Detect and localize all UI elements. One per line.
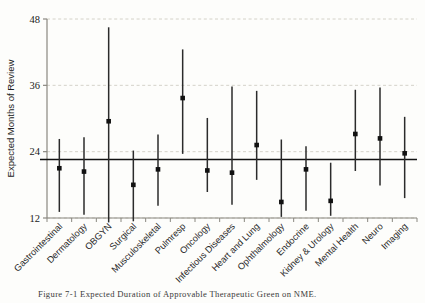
datapoint-group [106, 27, 111, 222]
y-tick-label-36: 36 [30, 80, 41, 91]
datapoint-group [304, 146, 309, 211]
y-tick-label-24: 24 [30, 146, 41, 157]
data-marker [131, 183, 136, 188]
y-tick-label-12: 12 [30, 213, 41, 224]
y-axis-title: Expected Months of Review [5, 59, 16, 177]
datapoint-group [180, 49, 185, 153]
chart-canvas: 12243648Expected Months of ReviewGastroi… [0, 0, 425, 303]
datapoint-group [156, 135, 161, 206]
figure-caption: Figure 7-1 Expected Duration of Approvab… [38, 289, 418, 299]
data-marker [279, 200, 284, 205]
datapoint-group [230, 86, 235, 204]
figure-container: 12243648Expected Months of ReviewGastroi… [0, 0, 425, 303]
datapoint-group [205, 118, 210, 192]
datapoint-group [254, 91, 259, 180]
data-marker [328, 199, 333, 204]
datapoint-group [57, 139, 62, 212]
datapoint-group [82, 137, 87, 214]
y-tick-label-48: 48 [30, 14, 41, 25]
data-marker [82, 169, 87, 174]
datapoint-group [402, 117, 407, 198]
datapoint-group [328, 163, 333, 216]
data-marker [57, 166, 62, 171]
data-marker [180, 96, 185, 101]
data-marker [378, 136, 383, 141]
data-marker [156, 167, 161, 172]
data-marker [106, 119, 111, 124]
data-marker [254, 143, 259, 148]
data-marker [230, 170, 235, 175]
x-tick-label-imaging: Imaging [379, 221, 409, 251]
data-marker [353, 132, 358, 137]
datapoint-group [131, 151, 136, 222]
data-marker [205, 168, 210, 173]
datapoint-group [279, 140, 284, 217]
datapoint-group [378, 88, 383, 186]
data-marker [402, 151, 407, 156]
data-marker [304, 167, 309, 172]
